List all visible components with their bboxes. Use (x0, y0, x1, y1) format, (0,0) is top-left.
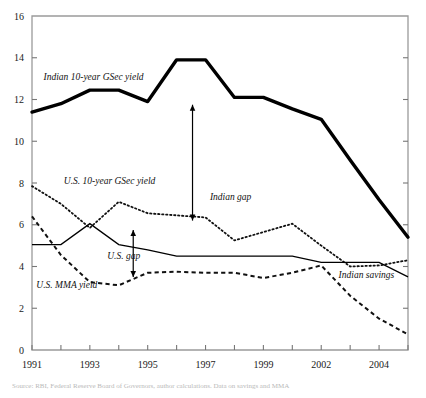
series-label-1: Indian 10-year GSec yield (43, 72, 144, 82)
y-tick-label: 14 (14, 52, 24, 63)
x-tick-label: 1997 (196, 359, 216, 370)
x-tick-label: 1991 (22, 359, 42, 370)
x-tick-label: 2002 (311, 359, 331, 370)
source-note: Source: RBI, Federal Reserve Board of Go… (12, 382, 422, 390)
us-gap-label: U.S. gap (107, 251, 140, 261)
y-tick-label: 0 (19, 345, 24, 356)
x-tick-label: 1999 (253, 359, 273, 370)
annotations: Indian gapU.S. gap (107, 105, 251, 277)
series-line (32, 224, 408, 277)
y-tick-label: 8 (19, 178, 24, 189)
series-1 (32, 60, 408, 237)
x-tick-label: 1993 (80, 359, 100, 370)
y-tick-label: 6 (19, 219, 24, 230)
series-labels: Indian 10-year GSec yieldU.S. 10-year GS… (36, 72, 394, 291)
series-label-4: U.S. MMA yield (36, 280, 97, 290)
series-3 (32, 224, 408, 277)
y-tick-label: 10 (14, 136, 24, 147)
y-tick-label: 2 (19, 303, 24, 314)
indian-gap-arrow-head-bottom (190, 215, 196, 221)
y-tick-label: 12 (14, 94, 24, 105)
line-chart: 0246810121416199119931995199719992002200… (0, 0, 426, 398)
indian-gap-arrow-head-top (190, 105, 196, 111)
y-tick-label: 4 (19, 261, 24, 272)
series-label-2: U.S. 10-year GSec yield (64, 176, 156, 186)
us-gap-arrow-head-top (130, 230, 136, 236)
series-line (32, 60, 408, 237)
us-gap-arrow-head-bottom (130, 271, 136, 277)
x-axis: 1991199319951997199920022004 (22, 345, 408, 370)
x-tick-label: 1995 (138, 359, 158, 370)
series-label-3: Indian savings (338, 270, 395, 280)
y-tick-label: 16 (14, 11, 24, 22)
chart-container: 0246810121416199119931995199719992002200… (0, 0, 426, 398)
indian-gap-label: Indian gap (209, 192, 252, 202)
x-tick-label: 2004 (369, 359, 389, 370)
